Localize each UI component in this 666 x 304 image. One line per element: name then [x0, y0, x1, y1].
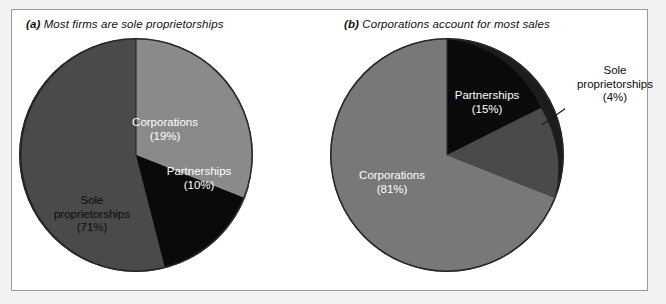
pie-b-svg	[329, 37, 565, 273]
pie-b-label-sole-value: (4%)	[569, 91, 661, 105]
panel-a-tag: (a)	[26, 18, 40, 30]
figure-frame: (a) Most firms are sole proprietorships	[11, 9, 648, 291]
pie-chart-b: Partnerships (15%) Sole proprietorships …	[329, 37, 565, 273]
panel-b-title-text: Corporations account for most sales	[362, 18, 550, 30]
figure-page: (a) Most firms are sole proprietorships	[0, 0, 666, 304]
panel-b: (b) Corporations account for most sales	[330, 10, 648, 290]
pie-chart-a: Corporations (19%) Partnerships (10%) So…	[18, 37, 254, 273]
pie-b-label-sole-line2: proprietorships	[569, 78, 661, 92]
panel-a: (a) Most firms are sole proprietorships	[12, 10, 330, 290]
panel-b-tag: (b)	[344, 18, 359, 30]
pie-b-label-sole-line1: Sole	[569, 64, 661, 78]
pie-a-svg	[18, 37, 254, 273]
panel-b-title: (b) Corporations account for most sales	[344, 18, 550, 30]
pie-b-label-sole-proprietorships: Sole proprietorships (4%)	[569, 64, 661, 105]
panel-a-title: (a) Most firms are sole proprietorships	[26, 18, 224, 30]
panel-a-title-text: Most firms are sole proprietorships	[44, 18, 224, 30]
